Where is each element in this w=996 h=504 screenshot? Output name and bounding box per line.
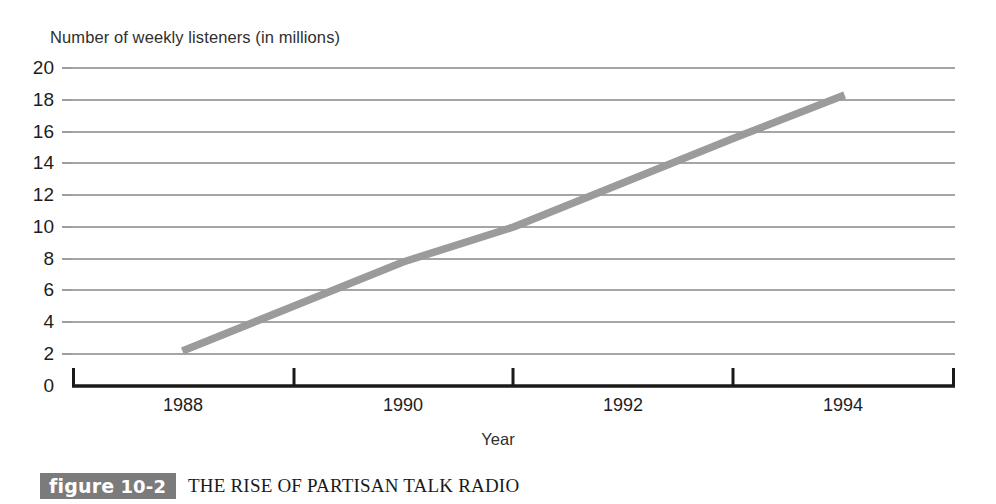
figure-badge-word: figure — [49, 475, 114, 497]
y-tick-label: 2 — [14, 344, 54, 363]
plot-area: 20 18 16 14 12 10 8 6 4 2 0 1988 1990 19… — [0, 0, 996, 460]
x-axis-title: Year — [0, 430, 996, 449]
data-series-line — [182, 95, 844, 351]
y-tick-label: 20 — [14, 58, 54, 77]
y-tick-label: 8 — [14, 249, 54, 268]
figure-badge-number: 10-2 — [120, 476, 166, 497]
y-tick-label: 14 — [14, 153, 54, 172]
y-tick-label: 6 — [14, 280, 54, 299]
line-chart-svg — [0, 0, 996, 460]
y-axis-tick-marks — [62, 68, 72, 354]
figure-number-badge: figure 10-2 — [40, 473, 176, 499]
y-tick-label: 12 — [14, 185, 54, 204]
x-tick-label: 1994 — [783, 396, 903, 414]
x-axis-ticks — [74, 368, 954, 386]
y-tick-label: 18 — [14, 90, 54, 109]
x-tick-label: 1992 — [563, 396, 683, 414]
y-tick-label: 16 — [14, 122, 54, 141]
x-tick-label: 1988 — [123, 396, 243, 414]
figure-container: Number of weekly listeners (in millions) — [0, 0, 996, 504]
y-tick-label: 10 — [14, 217, 54, 236]
y-tick-label: 4 — [14, 312, 54, 331]
figure-caption-title: THE RISE OF PARTISAN TALK RADIO — [188, 475, 519, 497]
figure-caption: figure 10-2 THE RISE OF PARTISAN TALK RA… — [0, 468, 996, 504]
x-tick-label: 1990 — [343, 396, 463, 414]
y-tick-label: 0 — [14, 376, 54, 395]
gridlines — [72, 68, 955, 354]
